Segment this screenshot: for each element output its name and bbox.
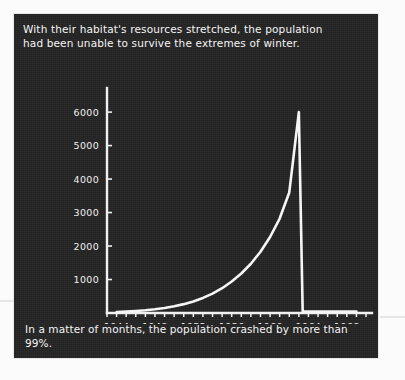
svg-text:3000: 3000 bbox=[74, 207, 99, 218]
population-chart: 600050004000300020001000 194419481952195… bbox=[14, 66, 378, 324]
svg-text:5000: 5000 bbox=[74, 140, 99, 151]
y-axis-tick-labels: 600050004000300020001000 bbox=[74, 107, 99, 285]
population-curve bbox=[117, 112, 357, 312]
scan-artifact-right bbox=[380, 316, 405, 318]
svg-text:6000: 6000 bbox=[74, 107, 99, 118]
screenshot-root: With their habitat's resources stretched… bbox=[0, 0, 405, 380]
svg-text:2000: 2000 bbox=[74, 241, 99, 252]
bottom-caption: In a matter of months, the population cr… bbox=[25, 322, 373, 350]
chart-svg: 600050004000300020001000 194419481952195… bbox=[14, 66, 378, 324]
top-caption: With their habitat's resources stretched… bbox=[23, 22, 369, 50]
svg-text:4000: 4000 bbox=[74, 174, 99, 185]
slide-panel: With their habitat's resources stretched… bbox=[14, 14, 378, 358]
svg-text:1000: 1000 bbox=[74, 274, 99, 285]
